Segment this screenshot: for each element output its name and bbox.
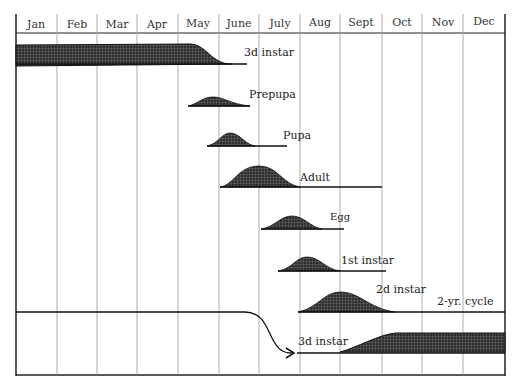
month-feb: Feb <box>67 18 88 31</box>
stage-egg: Egg <box>261 211 351 229</box>
two-year-cycle-arrow <box>16 312 294 358</box>
label-3d-instar-bottom: 3d instar <box>298 335 349 348</box>
label-prepupa: Prepupa <box>249 88 296 101</box>
label-1st-instar: 1st instar <box>341 254 395 267</box>
label-egg: Egg <box>330 211 351 222</box>
stage-adult: Adult <box>220 166 382 187</box>
stage-prepupa: Prepupa <box>188 88 296 106</box>
month-mar: Mar <box>105 18 129 31</box>
month-july: July <box>268 17 291 30</box>
stage-2d-instar: 2d instar 2-yr. cycle <box>298 283 505 312</box>
month-dec: Dec <box>473 15 495 28</box>
label-pupa: Pupa <box>283 129 312 142</box>
stage-3d-instar-second-year: 3d instar <box>297 333 505 353</box>
label-adult: Adult <box>299 171 331 184</box>
grid <box>16 14 505 376</box>
month-oct: Oct <box>392 16 412 29</box>
label-2d-instar: 2d instar <box>376 283 427 296</box>
month-jan: Jan <box>26 18 45 31</box>
stage-1st-instar: 1st instar <box>278 254 395 271</box>
month-aug: Aug <box>308 16 331 29</box>
month-apr: Apr <box>146 18 168 31</box>
month-june: June <box>225 17 251 30</box>
life-cycle-diagram: Jan Feb Mar Apr May June July Aug Sept O… <box>0 0 523 392</box>
stage-3d-instar-overwintering: 3d instar <box>16 44 295 66</box>
month-nov: Nov <box>432 16 455 29</box>
month-may: May <box>186 17 211 30</box>
label-2-yr-cycle: 2-yr. cycle <box>437 295 494 308</box>
month-header: Jan Feb Mar Apr May June July Aug Sept O… <box>26 15 495 31</box>
label-3d-instar: 3d instar <box>244 46 295 59</box>
month-sept: Sept <box>348 16 374 29</box>
